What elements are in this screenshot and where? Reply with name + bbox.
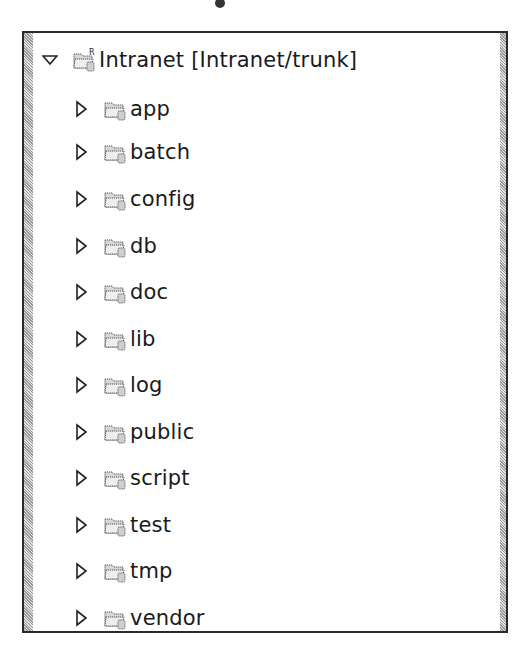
tree-root-label: Intranet [Intranet/trunk] <box>99 45 357 75</box>
collapsed-triangle-icon[interactable] <box>73 562 89 580</box>
collapsed-triangle-icon[interactable] <box>73 143 89 161</box>
collapsed-triangle-icon[interactable] <box>73 100 89 118</box>
tree-item-db[interactable]: db <box>73 231 157 261</box>
tree-item-label: tmp <box>130 556 173 586</box>
folder-icon <box>103 97 129 121</box>
collapsed-triangle-icon[interactable] <box>73 376 89 394</box>
folder-icon <box>103 373 129 397</box>
collapsed-triangle-icon[interactable] <box>73 283 89 301</box>
folder-icon <box>103 513 129 537</box>
tree-item-doc[interactable]: doc <box>73 277 168 307</box>
folder-icon <box>103 234 129 258</box>
collapsed-triangle-icon[interactable] <box>73 609 89 627</box>
folder-icon <box>103 420 129 444</box>
tree-item-label: db <box>130 231 157 261</box>
right-scroll-gutter <box>500 33 506 631</box>
tree-item-label: config <box>130 184 195 214</box>
tree-item-config[interactable]: config <box>73 184 195 214</box>
folder-icon <box>103 466 129 490</box>
collapsed-triangle-icon[interactable] <box>73 469 89 487</box>
tree-item-app[interactable]: app <box>73 94 170 124</box>
project-explorer-tree: R Intranet [Intranet/trunk] app batch co… <box>22 31 508 633</box>
tree-item-public[interactable]: public <box>73 417 194 447</box>
tree-root-row[interactable]: R Intranet [Intranet/trunk] <box>42 45 357 75</box>
folder-icon <box>103 140 129 164</box>
collapsed-triangle-icon[interactable] <box>73 516 89 534</box>
tree-item-label: public <box>130 417 194 447</box>
collapsed-triangle-icon[interactable] <box>73 330 89 348</box>
tree-item-script[interactable]: script <box>73 463 190 493</box>
tree-item-tmp[interactable]: tmp <box>73 556 173 586</box>
tree-item-label: vendor <box>130 603 205 633</box>
svg-text:R: R <box>89 48 95 57</box>
tree-item-log[interactable]: log <box>73 370 163 400</box>
tree-item-label: script <box>130 463 190 493</box>
collapsed-triangle-icon[interactable] <box>73 423 89 441</box>
collapsed-triangle-icon[interactable] <box>73 237 89 255</box>
cropped-text-fragment <box>215 0 225 8</box>
folder-icon <box>103 559 129 583</box>
tree-item-label: app <box>130 94 170 124</box>
folder-icon <box>103 606 129 630</box>
tree-item-label: batch <box>130 137 190 167</box>
tree-item-lib[interactable]: lib <box>73 324 156 354</box>
tree-item-vendor[interactable]: vendor <box>73 603 205 633</box>
left-scroll-gutter <box>24 33 33 631</box>
collapsed-triangle-icon[interactable] <box>73 190 89 208</box>
tree-item-label: lib <box>130 324 156 354</box>
tree-item-test[interactable]: test <box>73 510 171 540</box>
project-folder-icon: R <box>72 48 98 72</box>
tree-item-label: test <box>130 510 171 540</box>
expanded-triangle-icon[interactable] <box>42 51 58 69</box>
tree-item-label: doc <box>130 277 168 307</box>
folder-icon <box>103 187 129 211</box>
tree-item-batch[interactable]: batch <box>73 137 190 167</box>
folder-icon <box>103 327 129 351</box>
folder-icon <box>103 280 129 304</box>
tree-item-label: log <box>130 370 163 400</box>
